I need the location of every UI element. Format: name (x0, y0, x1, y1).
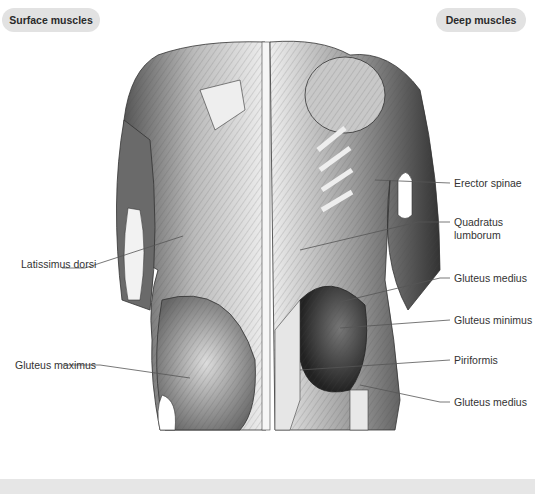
label-gluteus-maximus: Gluteus maximus (15, 359, 96, 371)
label-gluteus-medius-lower: Gluteus medius (454, 396, 527, 408)
deep-muscles-group (270, 41, 440, 430)
label-gluteus-medius-upper: Gluteus medius (454, 272, 527, 284)
label-lumborum: lumborum (454, 229, 501, 241)
label-quadratus: Quadratus (454, 216, 503, 228)
back-muscles-illustration (0, 0, 535, 494)
label-erector-spinae: Erector spinae (454, 177, 522, 189)
label-gluteus-minimus: Gluteus minimus (454, 314, 532, 326)
label-piriformis: Piriformis (454, 354, 498, 366)
footer-bar (0, 479, 535, 494)
surface-muscles-group (116, 42, 270, 430)
label-latissimus-dorsi: Latissimus dorsi (21, 258, 96, 270)
